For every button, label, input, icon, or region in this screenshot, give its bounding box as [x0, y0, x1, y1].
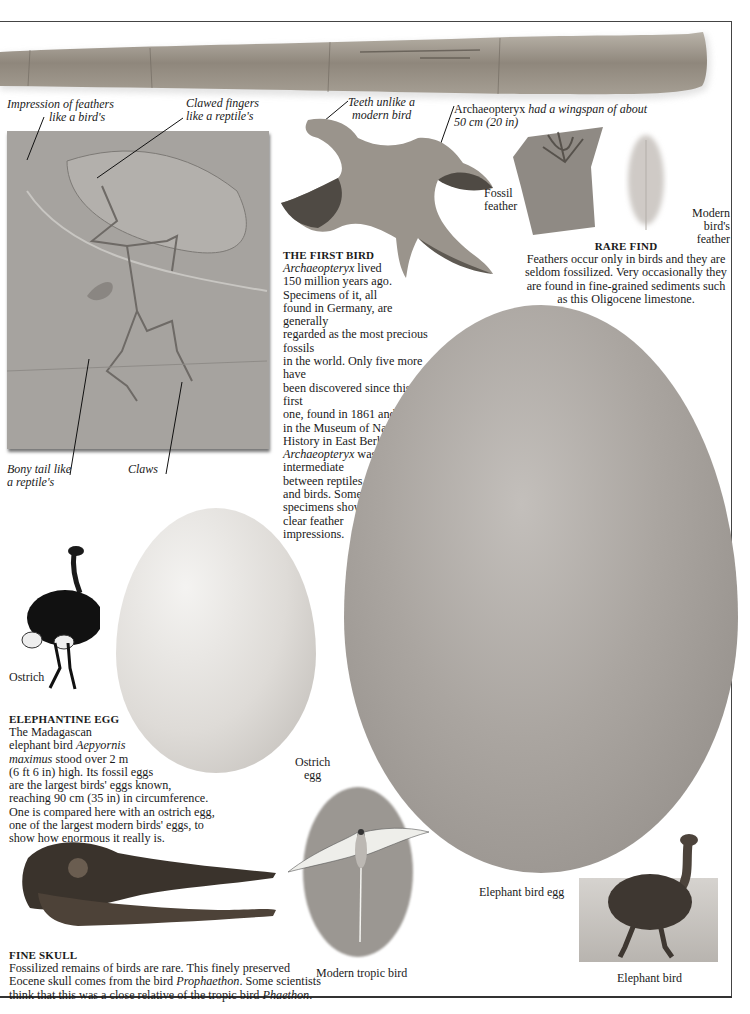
body-line: are the largest birds' eggs known, — [9, 779, 289, 792]
elephant-bird-label: Elephant bird — [617, 972, 682, 985]
prophaethon-skull-image — [18, 838, 280, 938]
callout-teeth: Teeth unlike a modern bird — [348, 96, 415, 122]
body-line: one of the largest modern birds' eggs, t… — [9, 819, 289, 832]
fossil-feather-image — [513, 127, 603, 237]
elephant-bird-image — [600, 832, 700, 962]
elephantine-egg-section: ELEPHANTINE EGG The Madagascanelephant b… — [9, 713, 289, 846]
body-line: maximus stood over 2 m — [9, 753, 289, 766]
tropic-bird-label: Modern tropic bird — [316, 967, 407, 980]
body-line: (6 ft 6 in) high. Its fossil eggs — [9, 766, 289, 779]
body-line: Archaeopteryx lived — [283, 262, 433, 275]
body-line: elephant bird Aepyornis — [9, 739, 289, 752]
ostrich-egg-label: Ostrich egg — [295, 756, 330, 782]
body-line: Specimens of it, all — [283, 289, 433, 302]
fossil-feather-label: Fossil feather — [484, 187, 517, 213]
fine-skull-section: FINE SKULL Fossilized remains of birds a… — [9, 949, 309, 1002]
body-line: One is compared here with an ostrich egg… — [9, 806, 289, 819]
body-line: The Madagascan — [9, 726, 289, 739]
ostrich-label: Ostrich — [9, 671, 44, 684]
elephantine-egg-body: The Madagascanelephant bird Aepyornismax… — [9, 726, 289, 846]
tropic-bird-image — [286, 820, 431, 945]
body-line: reaching 90 cm (35 in) in circumference. — [9, 792, 289, 805]
modern-feather-image — [618, 125, 678, 235]
body-line: found in Germany, are generally — [283, 302, 433, 329]
body-line: 150 million years ago. — [283, 275, 433, 288]
elephant-bird-egg-label: Elephant bird egg — [479, 886, 564, 899]
body-line: in the world. Only five more have — [283, 355, 433, 382]
rare-find-section: RARE FIND Feathers occur only in birds a… — [520, 240, 732, 306]
body-line: regarded as the most precious fossils — [283, 328, 433, 355]
